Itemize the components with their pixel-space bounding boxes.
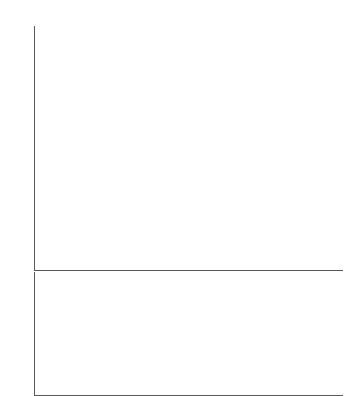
bottom-chart-bars: [35, 272, 343, 396]
top-chart-bars: [35, 26, 343, 271]
top-chart-plot-area: [34, 26, 343, 271]
top-bar-chart: [0, 26, 345, 271]
bottom-chart-plot-area: [34, 272, 343, 396]
bottom-bar-chart: [0, 272, 345, 396]
